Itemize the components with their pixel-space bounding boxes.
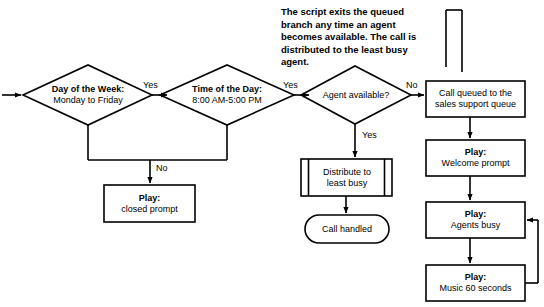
- node-welcome-prompt-shape: [426, 140, 525, 176]
- flowchart-graphics: [0, 0, 544, 307]
- node-day-of-week-shape: [23, 65, 152, 125]
- edge-label-agent-no: No: [406, 81, 418, 90]
- edge-label-agent-yes: Yes: [362, 131, 377, 140]
- node-agent-available-shape: [301, 66, 411, 124]
- annotation-text: The script exits the queued branch any t…: [281, 6, 437, 69]
- node-distribute-shape: [301, 159, 392, 196]
- node-call-queued-shape: [426, 81, 525, 117]
- node-time-of-day-shape: [160, 65, 294, 125]
- node-music-shape: [426, 265, 525, 301]
- edge-label-time-yes: Yes: [283, 81, 298, 90]
- node-agents-busy-shape: [426, 202, 525, 238]
- node-call-handled-shape: [305, 215, 389, 243]
- edge-label-closed-no: No: [156, 164, 168, 173]
- edge-label-day-yes: Yes: [143, 81, 158, 90]
- node-closed-prompt-shape: [104, 185, 195, 222]
- flowchart-canvas: The script exits the queued branch any t…: [0, 0, 544, 307]
